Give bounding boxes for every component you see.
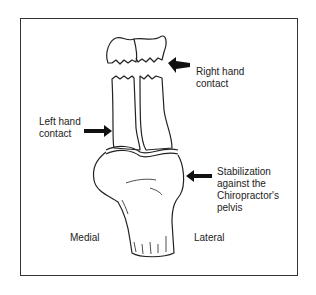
label-lateral: Lateral <box>194 232 225 244</box>
label-medial: Medial <box>70 232 99 244</box>
right-shaft <box>140 75 172 150</box>
distal-bone <box>94 152 184 257</box>
left-shaft <box>112 76 140 150</box>
right-hand-arrow <box>168 57 190 73</box>
label-left-hand-contact: Left hand contact <box>39 116 81 140</box>
label-stabilization: Stabilization against the Chiropractor's… <box>217 166 279 214</box>
stabilization-arrow <box>186 170 212 182</box>
bone-illustration <box>0 0 316 295</box>
left-hand-arrow <box>84 125 112 137</box>
right-carpal-bone <box>134 36 166 62</box>
label-right-hand-contact: Right hand contact <box>196 66 244 90</box>
left-carpal-bone <box>107 38 137 64</box>
